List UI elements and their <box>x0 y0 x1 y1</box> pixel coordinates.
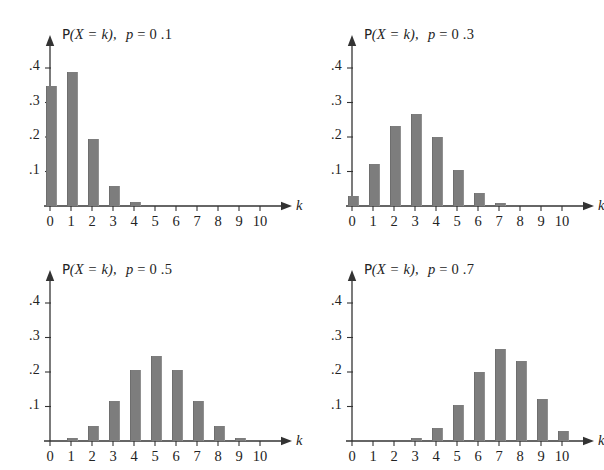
y-tick-label: .4 <box>16 58 40 74</box>
y-tick-label: .3 <box>318 328 342 344</box>
y-tick-label: .1 <box>16 162 40 178</box>
x-tick-label: 8 <box>510 448 530 465</box>
x-tick-label: 0 <box>342 213 362 230</box>
bar <box>109 401 120 441</box>
x-tick-label: 3 <box>103 448 123 465</box>
y-tick-label: .2 <box>318 127 342 143</box>
bar <box>235 438 246 441</box>
x-tick-label: 5 <box>145 448 165 465</box>
x-tick-label: 6 <box>468 448 488 465</box>
bar <box>495 203 506 206</box>
x-tick-label: 9 <box>531 213 551 230</box>
x-tick-label: 2 <box>384 448 404 465</box>
x-tick-label: 7 <box>187 448 207 465</box>
x-tick-label: 4 <box>426 448 446 465</box>
x-tick-label: 6 <box>468 213 488 230</box>
x-tick-label: 2 <box>82 448 102 465</box>
y-tick-label: .1 <box>318 397 342 413</box>
x-tick-label: 4 <box>124 448 144 465</box>
panel-p-0-5: P(X = k),p= 0 .5.1.2.3.4012345678910k <box>0 235 302 470</box>
bar <box>151 356 162 441</box>
bar <box>474 372 485 441</box>
bar <box>537 399 548 441</box>
x-tick-label: 6 <box>166 448 186 465</box>
x-axis-name: k <box>598 197 604 214</box>
bar <box>348 196 359 206</box>
panel-p-0-1: P(X = k),p= 0 .1.1.2.3.4012345678910k <box>0 0 302 235</box>
bar-series <box>0 0 302 235</box>
x-tick-label: 9 <box>531 448 551 465</box>
bar <box>130 370 141 441</box>
x-tick-label: 1 <box>363 213 383 230</box>
x-tick-label: 10 <box>250 448 270 465</box>
x-tick-label: 4 <box>124 213 144 230</box>
bar-series <box>302 235 604 470</box>
bar <box>67 438 78 441</box>
x-tick-label: 7 <box>187 213 207 230</box>
x-tick-label: 1 <box>61 213 81 230</box>
y-tick-label: .3 <box>16 328 40 344</box>
x-tick-label: 10 <box>552 213 572 230</box>
bar <box>172 370 183 441</box>
y-tick-label: .3 <box>318 93 342 109</box>
x-tick-label: 5 <box>447 213 467 230</box>
x-tick-label: 3 <box>405 213 425 230</box>
x-tick-label: 8 <box>208 213 228 230</box>
panel-p-0-3: P(X = k),p= 0 .3.1.2.3.4012345678910k <box>302 0 604 235</box>
y-tick-label: .2 <box>16 362 40 378</box>
binomial-pmf-figure: P(X = k),p= 0 .1.1.2.3.4012345678910kP(X… <box>0 0 604 470</box>
bar <box>130 202 141 206</box>
bar <box>453 405 464 441</box>
x-tick-label: 0 <box>40 448 60 465</box>
bar <box>474 193 485 206</box>
x-tick-label: 0 <box>342 448 362 465</box>
bar <box>390 126 401 206</box>
bar-series <box>0 235 302 470</box>
bar <box>411 114 422 206</box>
x-tick-label: 6 <box>166 213 186 230</box>
x-tick-label: 2 <box>384 213 404 230</box>
x-tick-label: 7 <box>489 448 509 465</box>
bar <box>46 86 57 206</box>
y-tick-label: .3 <box>16 93 40 109</box>
y-tick-label: .4 <box>16 293 40 309</box>
x-axis-name: k <box>598 432 604 449</box>
bar <box>432 428 443 441</box>
x-tick-label: 7 <box>489 213 509 230</box>
x-tick-label: 2 <box>82 213 102 230</box>
bar <box>88 139 99 206</box>
bar <box>67 72 78 206</box>
x-tick-label: 0 <box>40 213 60 230</box>
bar <box>411 438 422 441</box>
x-tick-label: 8 <box>510 213 530 230</box>
y-tick-label: .2 <box>318 362 342 378</box>
x-tick-label: 10 <box>552 448 572 465</box>
bar <box>214 426 225 441</box>
bar <box>109 186 120 206</box>
x-tick-label: 5 <box>447 448 467 465</box>
x-tick-label: 9 <box>229 213 249 230</box>
x-tick-label: 8 <box>208 448 228 465</box>
y-tick-label: .4 <box>318 58 342 74</box>
x-tick-label: 3 <box>103 213 123 230</box>
y-tick-label: .1 <box>16 397 40 413</box>
y-tick-label: .4 <box>318 293 342 309</box>
x-tick-label: 3 <box>405 448 425 465</box>
x-tick-label: 1 <box>61 448 81 465</box>
x-tick-label: 5 <box>145 213 165 230</box>
bar <box>88 426 99 441</box>
y-tick-label: .1 <box>318 162 342 178</box>
x-tick-label: 1 <box>363 448 383 465</box>
x-tick-label: 10 <box>250 213 270 230</box>
bar <box>432 137 443 206</box>
panel-p-0-7: P(X = k),p= 0 .7.1.2.3.4012345678910k <box>302 235 604 470</box>
bar <box>558 431 569 441</box>
bar <box>453 170 464 206</box>
bar <box>516 361 527 441</box>
x-tick-label: 4 <box>426 213 446 230</box>
bar-series <box>302 0 604 235</box>
y-tick-label: .2 <box>16 127 40 143</box>
bar <box>193 401 204 441</box>
x-tick-label: 9 <box>229 448 249 465</box>
bar <box>495 349 506 441</box>
